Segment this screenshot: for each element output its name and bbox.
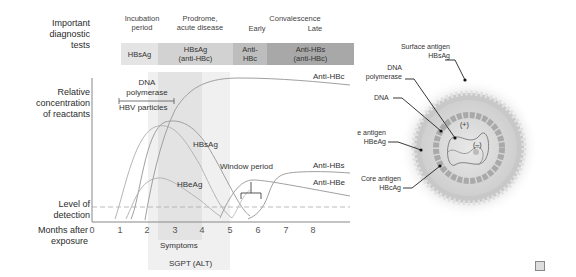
x-tick-2: 2 <box>144 225 149 235</box>
x-tick-0: 0 <box>89 225 94 235</box>
curve-anti-hbc <box>145 78 350 220</box>
virion-label-e-antigen: e antigenHBeAg <box>350 128 386 146</box>
virion-label-dna-polymerase: DNApolymerase <box>362 63 402 81</box>
x-tick-4: 4 <box>199 225 204 235</box>
serology-chart <box>0 0 576 277</box>
virion-label-plus: (+) <box>460 121 469 128</box>
virion-label-surface: Surface antigenHBsAg <box>395 42 450 60</box>
label-symptoms: Symptoms <box>160 241 198 250</box>
label-hbeag: HBeAg <box>177 180 202 189</box>
label-hbv-particles: HBV particles <box>119 103 167 112</box>
x-tick-5: 5 <box>227 225 232 235</box>
label-anti-hbs: Anti-HBs <box>313 161 345 170</box>
label-dna-polymerase: DNApolymerase <box>122 78 172 98</box>
x-tick-6: 6 <box>255 225 260 235</box>
x-tick-3: 3 <box>172 225 177 235</box>
x-tick-7: 7 <box>283 225 288 235</box>
virion-label-minus: (–) <box>473 141 482 148</box>
label-anti-hbc: Anti-HBc <box>313 72 345 81</box>
label-hbsag: HBsAg <box>193 140 218 149</box>
virion-label-dna: DNA <box>374 94 389 101</box>
label-anti-hbe: Anti-HBe <box>313 178 345 187</box>
image-icon[interactable] <box>535 261 545 271</box>
x-tick-8: 8 <box>310 225 315 235</box>
x-tick-1: 1 <box>117 225 122 235</box>
label-window-period: Window period <box>220 162 273 171</box>
label-sgpt: SGPT (ALT) <box>169 259 212 268</box>
virion-label-core-antigen: Core antigenHBcAg <box>358 174 401 192</box>
